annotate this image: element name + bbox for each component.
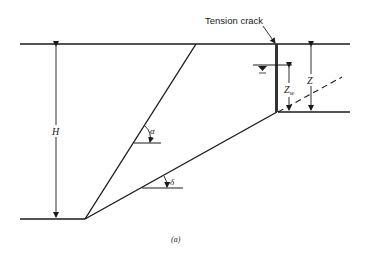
delta-angle: [142, 176, 183, 188]
tension-crack-leader: [263, 26, 275, 43]
failure-plane: [85, 112, 277, 219]
H-label: H: [51, 126, 60, 137]
figure-caption: (a): [171, 235, 181, 244]
slope-face: [85, 44, 196, 219]
water-table-icon: [253, 65, 292, 73]
Z-label: Z: [307, 75, 313, 86]
delta-label: δ: [170, 177, 175, 187]
tension-crack-label: Tension crack: [205, 15, 263, 26]
alpha-label: α: [150, 126, 155, 136]
tension-crack: [275, 44, 278, 112]
slope-diagram: Tension crack H Z Zw α δ (a): [0, 0, 371, 254]
